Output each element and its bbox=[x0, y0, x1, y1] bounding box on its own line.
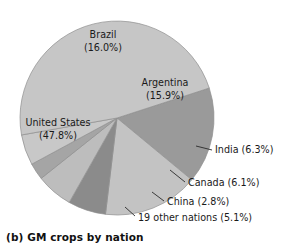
figure-caption: (b) GM crops by nation bbox=[6, 231, 144, 243]
callout-label-canada: Canada (6.1%) bbox=[188, 177, 259, 188]
callout-label-india: India (6.3%) bbox=[215, 144, 273, 155]
figure-gm-crops-by-nation: Brazil(16.0%)Argentina(15.9%)India (6.3%… bbox=[0, 0, 283, 250]
slice-label-brazil: Brazil bbox=[90, 29, 117, 40]
slice-label-united-states: United States bbox=[26, 117, 91, 128]
slice-label-argentina: Argentina bbox=[142, 77, 189, 88]
slice-value-united-states: (47.8%) bbox=[39, 130, 77, 141]
slice-value-argentina: (15.9%) bbox=[146, 90, 184, 101]
pie-chart: Brazil(16.0%)Argentina(15.9%)India (6.3%… bbox=[0, 0, 283, 250]
slice-value-brazil: (16.0%) bbox=[84, 42, 122, 53]
callout-label-19-other-nations: 19 other nations (5.1%) bbox=[138, 212, 252, 223]
callout-label-china: China (2.8%) bbox=[167, 196, 229, 207]
